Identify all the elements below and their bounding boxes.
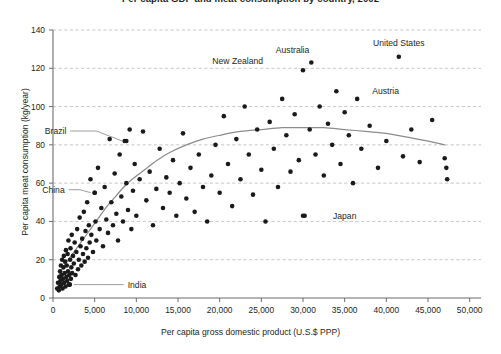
data-point: [209, 173, 214, 178]
data-point: [96, 166, 101, 171]
x-tick-label-0: 0: [51, 305, 56, 315]
data-point: [184, 196, 189, 201]
data-point: [75, 227, 80, 232]
data-point: [205, 219, 210, 224]
y-tick-label-120: 120: [31, 63, 45, 73]
data-point: [430, 118, 435, 123]
scatter-plot: 05,00010,00015,00020,00025,00030,00035,0…: [0, 0, 501, 354]
data-point: [222, 114, 227, 119]
data-point: [78, 244, 83, 249]
data-point: [367, 123, 372, 128]
data-point: [102, 185, 107, 190]
data-point: [309, 60, 314, 65]
annotation-label-new-zealand: New Zealand: [212, 56, 263, 66]
data-point: [171, 158, 176, 163]
y-tick-label-40: 40: [36, 216, 46, 226]
data-point: [93, 219, 98, 224]
data-point: [131, 189, 136, 194]
data-point: [121, 219, 126, 224]
annotation-label-brazil: Brazil: [45, 126, 67, 136]
chart-figure: Per capita GDP and meat consumption by c…: [0, 0, 501, 354]
data-point: [397, 55, 402, 60]
data-point: [64, 263, 69, 268]
data-point: [154, 187, 159, 192]
x-tick-label-5000: 5,000: [84, 305, 105, 315]
data-point: [83, 229, 88, 234]
data-point: [88, 177, 93, 182]
data-point: [106, 231, 111, 236]
data-point: [301, 68, 306, 73]
data-point: [134, 213, 139, 218]
leader-line-brazil: [70, 131, 122, 141]
data-point: [82, 210, 87, 215]
data-point: [85, 200, 90, 205]
data-point: [86, 255, 91, 260]
data-point: [77, 215, 82, 220]
x-tick-label-50000: 50,000: [457, 305, 483, 315]
data-point: [97, 227, 102, 232]
data-point: [127, 127, 132, 132]
data-point: [267, 120, 272, 125]
data-point: [73, 273, 78, 278]
data-point: [174, 213, 179, 218]
data-point: [251, 192, 256, 197]
y-tick-label-140: 140: [31, 25, 45, 35]
data-point: [272, 146, 277, 151]
x-tick-label-35000: 35,000: [332, 305, 358, 315]
data-point: [99, 206, 104, 211]
data-point: [74, 250, 79, 255]
data-point: [72, 261, 77, 266]
data-point: [126, 208, 131, 213]
data-point: [238, 177, 243, 182]
data-point: [417, 160, 422, 165]
data-point: [66, 238, 71, 243]
data-point: [82, 259, 87, 264]
data-point: [376, 166, 381, 171]
data-point: [77, 257, 82, 262]
data-point: [401, 154, 406, 159]
data-point: [147, 169, 152, 174]
data-point: [92, 190, 97, 195]
data-point: [101, 244, 106, 249]
data-point: [201, 185, 206, 190]
data-point: [297, 158, 302, 163]
data-point: [234, 137, 239, 142]
data-point: [68, 246, 73, 251]
data-point: [384, 139, 389, 144]
x-tick-label-30000: 30,000: [290, 305, 316, 315]
data-point: [89, 233, 94, 238]
data-point: [69, 233, 74, 238]
data-point: [197, 152, 202, 157]
x-tick-label-25000: 25,000: [249, 305, 275, 315]
data-point: [338, 162, 343, 167]
y-tick-label-80: 80: [36, 140, 46, 150]
data-point: [161, 206, 166, 211]
data-point: [242, 104, 247, 109]
data-point: [71, 254, 76, 259]
data-point: [181, 131, 186, 136]
data-point: [247, 152, 252, 157]
data-point: [94, 238, 99, 243]
data-point: [132, 162, 137, 167]
data-point: [76, 267, 81, 272]
axes: [53, 30, 481, 298]
data-point: [112, 171, 117, 176]
y-axis-ticks: 020406080100120140: [31, 25, 53, 303]
data-point: [111, 223, 116, 228]
annotations: United StatesAustraliaAustriaNew Zealand…: [42, 38, 424, 290]
data-point: [117, 152, 122, 157]
data-point: [217, 190, 222, 195]
data-point: [347, 133, 352, 138]
x-axis-ticks: 05,00010,00015,00020,00025,00030,00035,0…: [51, 298, 483, 315]
data-point: [307, 127, 312, 132]
data-point: [72, 240, 77, 245]
data-point: [116, 238, 121, 243]
data-point: [177, 181, 182, 186]
data-point: [68, 257, 73, 262]
data-point: [137, 177, 142, 182]
data-point: [124, 181, 129, 186]
annotation-label-united-states: United States: [373, 38, 425, 48]
data-point: [276, 185, 281, 190]
annotation-label-japan: Japan: [333, 211, 357, 221]
data-point: [263, 219, 268, 224]
